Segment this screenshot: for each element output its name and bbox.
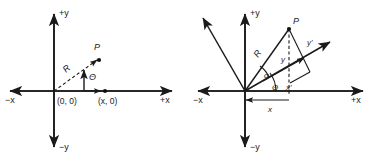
axis-label-neg-x: −x [193,95,203,105]
right-diagram-svg: +y −y +x −x [188,0,375,162]
axis-label-neg-x: −x [5,95,15,105]
axis-label-pos-x: +x [351,95,361,105]
y-prime-segment [289,29,310,72]
point-p-dot [287,27,291,31]
label-point-p: P [94,42,100,52]
label-radius-r: R [251,48,263,59]
label-x-coordinate: (x, 0) [98,96,118,106]
label-y-component: y [280,55,286,64]
label-x-prime: x' [285,83,292,92]
axis-label-pos-y: +y [250,8,260,18]
label-theta: Θ [272,83,278,92]
left-diagram-svg: +y −y +x −x P R Θ (0, 0) (x, 0) [0,0,188,162]
point-x-zero-dot [103,89,107,93]
axis-label-neg-y: −y [250,142,260,152]
label-origin-coordinate: (0, 0) [57,96,77,106]
label-radius-r: R [61,62,73,74]
label-point-p: P [293,16,299,26]
label-angle-theta: Θ [89,72,96,82]
label-alpha: α [264,71,269,80]
axis-label-pos-x: +x [160,95,170,105]
figure-container: +y −y +x −x P R Θ (0, 0) (x, 0) [0,0,375,162]
diagram-right-rotated-axes: +y −y +x −x [188,0,375,162]
point-p-dot [97,58,101,62]
diagram-left-cartesian-polar: +y −y +x −x P R Θ (0, 0) (x, 0) [0,0,188,162]
label-x-component: x [267,105,273,114]
label-y-prime: y' [306,38,313,47]
axis-label-pos-y: +y [59,8,69,18]
axis-label-neg-y: −y [59,142,69,152]
rotated-y-prime-axis [203,18,245,91]
x-prime-foot-segment [290,72,310,83]
